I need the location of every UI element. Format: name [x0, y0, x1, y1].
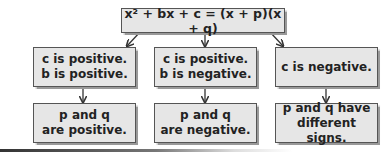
case-1-result-box: p and q are positive. — [33, 103, 136, 143]
case-1-condition-box: c is positive. b is positive. — [33, 47, 136, 87]
condition-line-2: b is negative. — [160, 67, 252, 82]
condition-line-1: c is positive. — [42, 52, 127, 67]
result-line-1: p and q — [180, 108, 231, 123]
case-2-condition-box: c is positive. b is negative. — [154, 47, 257, 87]
result-line-2: are positive. — [42, 123, 127, 138]
bottom-divider — [0, 149, 390, 152]
result-line-2: different signs. — [276, 116, 377, 146]
condition-line-2: b is positive. — [41, 67, 128, 82]
result-line-2: are negative. — [160, 123, 250, 138]
case-3-condition-box: c is negative. — [275, 47, 378, 87]
condition-line-1: c is negative. — [281, 60, 371, 75]
result-line-1: p and q have — [283, 101, 371, 116]
equation-text: x² + bx + c = (x + p)(x + q) — [122, 6, 284, 36]
result-line-1: p and q — [59, 108, 110, 123]
factoring-equation-box: x² + bx + c = (x + p)(x + q) — [121, 8, 285, 33]
case-2-result-box: p and q are negative. — [154, 103, 257, 143]
condition-line-1: c is positive. — [163, 52, 248, 67]
case-3-result-box: p and q have different signs. — [275, 103, 378, 143]
